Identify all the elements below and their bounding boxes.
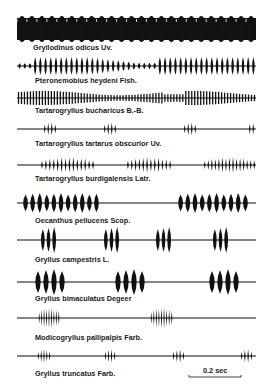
species-label-tartarogryllus-burdigalensis: Tartarogryllus burdigalensis Latr. [35, 174, 150, 183]
scale-bar-label: 0.2 sec [203, 366, 227, 375]
cricket-song-oscillogram-figure: Gryllodinus odicus Uv. Pteronemobius hey… [0, 0, 271, 391]
species-label-gryllodinus-odicus: Gryllodinus odicus Uv. [33, 43, 112, 52]
species-label-tartarogryllus-tartarus-obscurior: Tartarogryllus tartarus obscurior Uv. [35, 139, 161, 148]
species-label-gryllus-truncatus: Gryllus truncatus Farb. [35, 369, 115, 378]
species-label-tartarogryllus-bucharicus: Tartarogryllus bucharicus B.-B. [35, 106, 144, 115]
species-label-oecanthus-pellucens: Oecanthus pellucens Scop. [35, 216, 130, 225]
species-label-gryllus-bimaculatus: Gryllus bimaculatus Degeer [35, 294, 132, 303]
species-label-modicogryllus-pallipalpis: Modicogryllus pallipalpis Farb. [35, 333, 142, 342]
species-label-pteronemobius-heydeni: Pteronemobius heydeni Fish. [35, 76, 137, 85]
species-label-gryllus-campestris: Gryllus campestris L. [35, 255, 109, 264]
